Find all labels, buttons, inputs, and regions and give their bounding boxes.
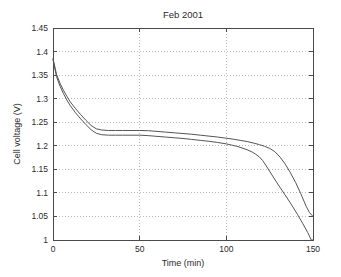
- series-lines: [53, 59, 313, 240]
- x-tick-label: 100: [219, 244, 233, 254]
- chart-figure: 11.051.11.151.21.251.31.351.41.450501001…: [0, 0, 341, 277]
- x-tick-label: 150: [306, 244, 320, 254]
- y-tick-label: 1.35: [31, 70, 48, 80]
- y-tick-label: 1.05: [31, 211, 48, 221]
- series-cell-2: [53, 60, 313, 240]
- y-tick-label: 1.1: [36, 188, 48, 198]
- y-tick-label: 1.3: [36, 94, 48, 104]
- chart-canvas: 11.051.11.151.21.251.31.351.41.450501001…: [0, 0, 341, 277]
- x-axis-title: Time (min): [162, 258, 205, 268]
- x-tick-label: 0: [51, 244, 56, 254]
- tick-labels: 11.051.11.151.21.251.31.351.41.450501001…: [31, 23, 320, 254]
- y-tick-label: 1.4: [36, 47, 48, 57]
- chart-title: Feb 2001: [163, 9, 203, 20]
- y-tick-label: 1.15: [31, 164, 48, 174]
- y-tick-label: 1.45: [31, 23, 48, 33]
- y-tick-label: 1.25: [31, 117, 48, 127]
- x-tick-label: 50: [135, 244, 145, 254]
- y-tick-label: 1.2: [36, 141, 48, 151]
- y-tick-label: 1: [43, 235, 48, 245]
- y-axis-title: Cell voltage (V): [12, 103, 22, 165]
